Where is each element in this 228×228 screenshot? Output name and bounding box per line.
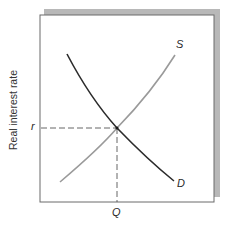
y-axis-label-text: Real interest rate — [7, 70, 19, 150]
diagram-canvas — [0, 0, 228, 228]
supply-curve-label: S — [176, 39, 183, 50]
demand-curve-label: D — [177, 178, 185, 189]
supply-demand-diagram: Real interest rate r Q S D — [0, 0, 228, 228]
equilibrium-point — [116, 127, 119, 130]
equilibrium-quantity-label: Q — [112, 207, 121, 218]
equilibrium-rate-label: r — [31, 121, 35, 132]
y-axis-label: Real interest rate — [5, 50, 21, 170]
plot-frame — [40, 15, 214, 202]
